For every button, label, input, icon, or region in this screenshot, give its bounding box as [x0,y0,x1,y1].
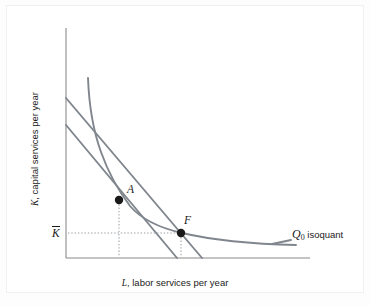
plot-canvas [0,0,370,306]
point-a-label: A [127,184,134,196]
figure-root: K, capital services per year L, labor se… [0,0,370,306]
isoquant-label: Q0 isoquant [292,228,343,242]
isoquant-symbol: Q [292,227,301,241]
isoquant-subscript: 0 [301,233,305,242]
y-axis-symbol: K [30,200,40,206]
y-axis-text: , capital services per year [29,92,40,200]
x-axis-label: L, labor services per year [60,272,290,290]
isoquant-leader-line [272,240,291,244]
kbar-axis-label: K [52,226,60,240]
point-f-marker [177,229,185,237]
point-a-marker [115,196,123,204]
point-f-label: F [184,215,191,227]
isocost-line-lower [66,125,177,258]
x-axis-text: , labor services per year [127,277,228,288]
y-axis-label: K, capital services per year [24,69,42,229]
isoquant-word: isoquant [307,229,343,240]
kbar-symbol: K [52,226,60,240]
